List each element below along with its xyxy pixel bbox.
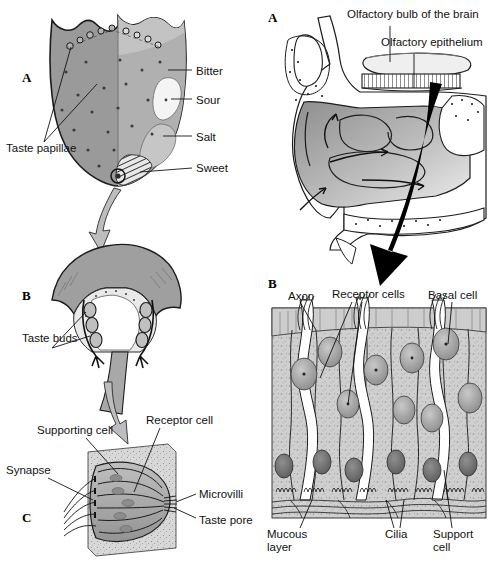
label-taste-papillae: Taste papillae	[6, 142, 76, 155]
panel-letter-left-c: C	[22, 510, 31, 526]
label-microvilli: Microvilli	[199, 488, 243, 501]
anatomy-figure	[0, 0, 490, 571]
label-taste-pore: Taste pore	[199, 514, 253, 527]
label-olfactory-bulb: Olfactory bulb of the brain	[347, 8, 479, 21]
label-sweet: Sweet	[196, 162, 228, 175]
olfactory-epithelium-diagram	[272, 294, 486, 528]
cribriform-plate	[362, 74, 460, 88]
panel-letter-right-a: A	[268, 10, 277, 26]
panel-letter-right-b: B	[268, 276, 277, 292]
label-salt: Salt	[196, 131, 216, 144]
label-cilia: Cilia	[385, 528, 407, 541]
label-axon: Axon	[288, 290, 314, 303]
panel-letter-left-a: A	[22, 70, 31, 86]
frontal-sinus	[294, 35, 322, 86]
label-mucous-layer: Mucous layer	[267, 528, 319, 554]
label-synapse: Synapse	[6, 464, 51, 477]
label-support-cell: Support cell	[433, 528, 483, 554]
label-olfactory-epithelium: Olfactory epithelium	[381, 36, 483, 49]
olfactory-bulb	[363, 53, 471, 76]
label-sour: Sour	[196, 94, 220, 107]
label-supporting-cell: Supporting cell	[37, 424, 113, 437]
label-receptor-cells: Receptor cells	[332, 288, 405, 301]
label-taste-buds: Taste buds	[22, 332, 78, 345]
label-basal-cell: Basal cell	[428, 289, 477, 302]
label-receptor-cell: Receptor cell	[146, 414, 213, 427]
label-bitter: Bitter	[196, 65, 223, 78]
sphenoid-sinus	[439, 95, 484, 155]
panel-letter-left-b: B	[22, 288, 31, 304]
